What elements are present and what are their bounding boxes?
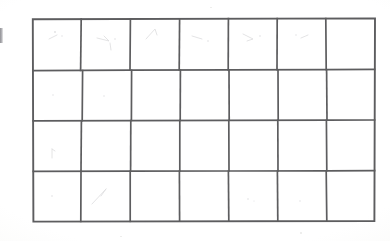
scanned-page [0,0,390,241]
left-page-edge-mark [0,28,3,43]
grid-vline [81,19,82,70]
grid-lines [32,18,375,222]
grid-hline [33,171,374,172]
grid-hline [33,69,375,70]
paper-speck [210,7,212,8]
paper-speck [300,232,302,234]
grid-hline [33,120,374,121]
grid-vline [326,171,327,221]
hand-drawn-grid [32,18,375,222]
paper-speck [120,236,122,237]
